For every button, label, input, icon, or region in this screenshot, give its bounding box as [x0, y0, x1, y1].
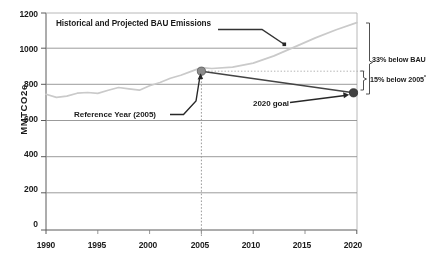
reference-year-marker — [197, 67, 205, 75]
y-axis-ticks — [41, 13, 46, 230]
chart-vector-layer — [0, 0, 436, 275]
emissions-chart: MMTCO2e 1200 1000 800 600 400 200 0 1990… — [0, 0, 436, 275]
bracket-upper — [366, 23, 373, 94]
reduction-path-line — [201, 71, 353, 93]
bau-label-leader — [218, 30, 286, 47]
goal-marker — [349, 89, 357, 97]
bracket-lower — [361, 71, 367, 90]
reference-year-leader — [170, 73, 203, 114]
goal-label-leader — [290, 92, 349, 102]
